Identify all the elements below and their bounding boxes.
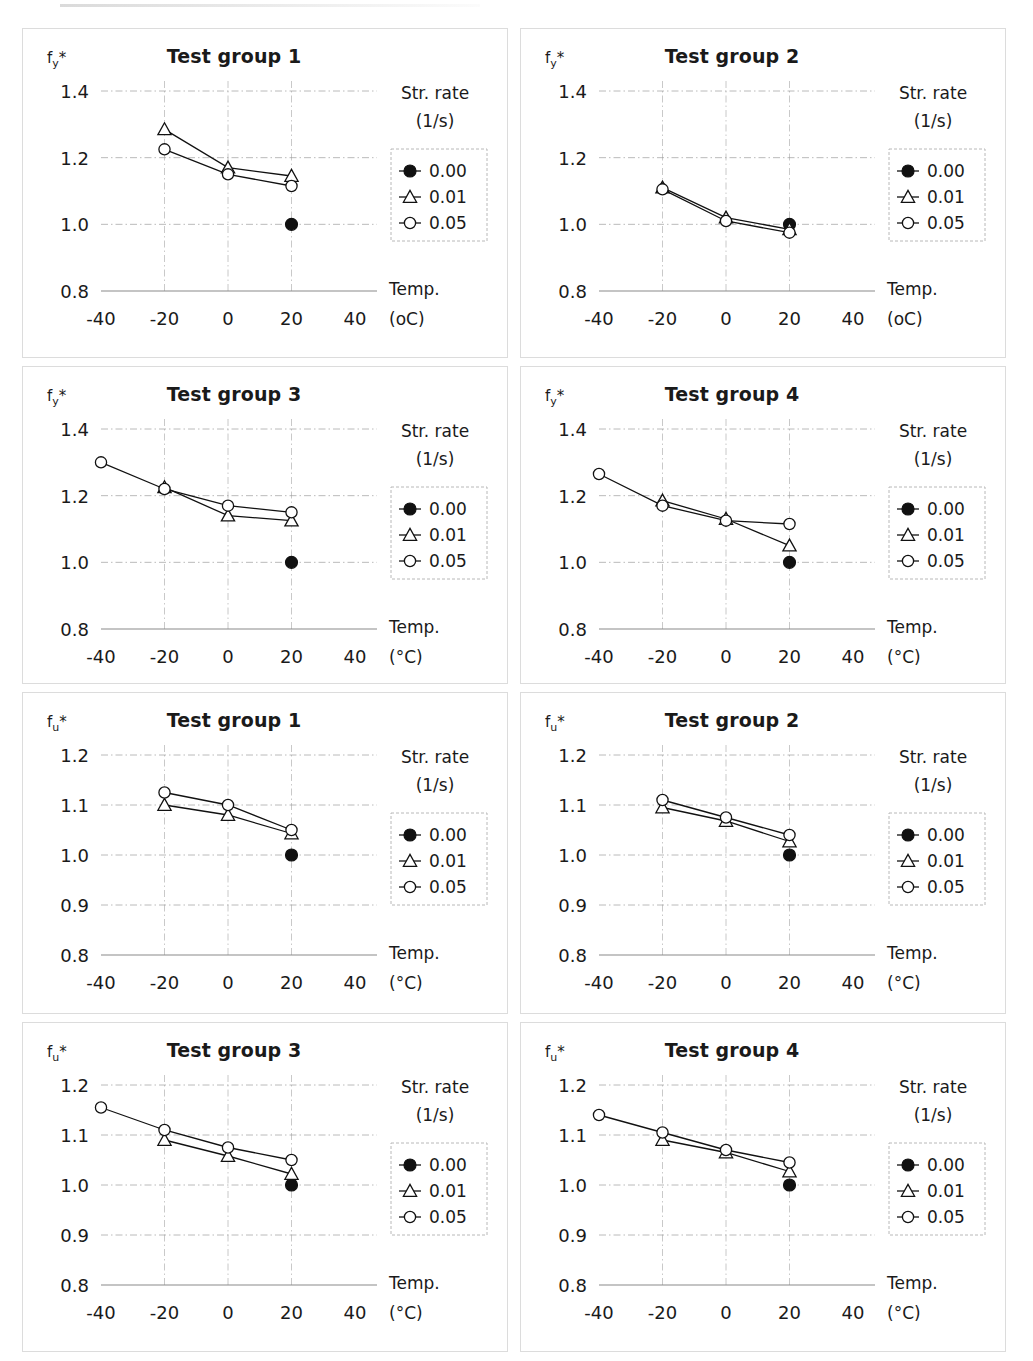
legend-marker-open-circle: [902, 555, 913, 566]
data-point-open-circle: [657, 500, 668, 511]
data-point-open-circle: [222, 1142, 233, 1153]
chart-svg: Test group 3fu*0.80.91.01.11.2-40-200204…: [23, 1023, 507, 1339]
x-tick-label: -20: [150, 308, 179, 329]
data-point-open-circle: [657, 184, 668, 195]
data-point-open-circle: [222, 500, 233, 511]
x-tick-label: -20: [150, 972, 179, 993]
data-point-open-circle: [222, 799, 233, 810]
legend-marker-filled-circle: [902, 829, 914, 841]
legend-label: 0.00: [429, 1155, 467, 1175]
data-point-open-circle: [159, 1124, 170, 1135]
data-point-open-circle: [95, 457, 106, 468]
chart-title: Test group 2: [665, 709, 800, 731]
legend-header-line1: Str. rate: [401, 83, 469, 103]
data-point-open-circle: [222, 169, 233, 180]
y-axis-label: fu*: [47, 713, 67, 734]
legend-header-line2: (1/s): [416, 111, 455, 131]
data-point-open-circle: [784, 518, 795, 529]
data-point-open-circle: [720, 215, 731, 226]
x-axis-title: Temp.: [886, 279, 938, 299]
chart-panel: Test group 3fu*0.80.91.01.11.2-40-200204…: [22, 1022, 508, 1352]
data-point-open-circle: [720, 812, 731, 823]
legend-label: 0.05: [927, 1207, 965, 1227]
chart-title: Test group 1: [167, 709, 302, 731]
x-tick-label: -40: [86, 308, 115, 329]
legend-marker-filled-circle: [902, 165, 914, 177]
data-point-open-circle: [286, 507, 297, 518]
chart-title: Test group 3: [167, 383, 302, 405]
x-axis-unit: (oC): [887, 309, 923, 329]
legend-label: 0.00: [927, 161, 965, 181]
data-point-open-circle: [784, 227, 795, 238]
series-line-0.05: [599, 1115, 790, 1163]
legend-marker-filled-circle: [404, 829, 416, 841]
chart-svg: Test group 1fy*0.81.01.21.4-40-2002040Te…: [23, 29, 507, 345]
x-tick-label: 20: [280, 972, 303, 993]
x-tick-label: 0: [720, 1302, 731, 1323]
y-tick-label: 1.2: [558, 486, 587, 507]
x-tick-label: 0: [222, 972, 233, 993]
legend-label: 0.05: [429, 551, 467, 571]
y-tick-label: 1.1: [558, 1125, 587, 1146]
legend-label: 0.05: [927, 213, 965, 233]
data-point-open-circle: [784, 829, 795, 840]
x-tick-label: -40: [584, 1302, 613, 1323]
x-axis-title: Temp.: [886, 617, 938, 637]
data-point-filled-circle: [286, 218, 298, 230]
x-tick-label: 20: [778, 972, 801, 993]
x-tick-label: 40: [344, 972, 367, 993]
x-tick-label: -40: [584, 308, 613, 329]
x-tick-label: -20: [150, 1302, 179, 1323]
chart-title: Test group 3: [167, 1039, 302, 1061]
chart-panel: Test group 2fu*0.80.91.01.11.2-40-200204…: [520, 692, 1006, 1014]
data-point-filled-circle: [784, 1179, 796, 1191]
chart-svg: Test group 2fy*0.81.01.21.4-40-2002040Te…: [521, 29, 1005, 345]
x-tick-label: -20: [648, 972, 677, 993]
legend-marker-filled-circle: [902, 503, 914, 515]
y-tick-label: 1.2: [558, 1075, 587, 1096]
data-point-open-circle: [593, 1109, 604, 1120]
x-axis-unit: (°C): [887, 1303, 921, 1323]
data-point-filled-circle: [286, 1179, 298, 1191]
legend-label: 0.05: [927, 877, 965, 897]
chart-panel: Test group 2fy*0.81.01.21.4-40-2002040Te…: [520, 28, 1006, 358]
data-point-filled-circle: [784, 849, 796, 861]
y-tick-label: 0.9: [60, 1225, 89, 1246]
legend-header-line1: Str. rate: [401, 747, 469, 767]
legend-header-line1: Str. rate: [401, 421, 469, 441]
legend-header-line2: (1/s): [416, 449, 455, 469]
legend-header-line1: Str. rate: [899, 747, 967, 767]
y-tick-label: 0.8: [558, 619, 587, 640]
x-tick-label: 40: [842, 972, 865, 993]
legend-marker-open-circle: [404, 881, 415, 892]
x-axis-unit: (°C): [389, 973, 423, 993]
x-tick-label: -40: [584, 972, 613, 993]
chart-svg: Test group 4fy*0.81.01.21.4-40-2002040Te…: [521, 367, 1005, 683]
legend-label: 0.05: [429, 1207, 467, 1227]
x-tick-label: 20: [778, 1302, 801, 1323]
y-tick-label: 1.4: [60, 81, 89, 102]
series-line-0.05: [599, 474, 790, 524]
y-axis-label: fy*: [47, 387, 67, 408]
x-tick-label: -20: [648, 646, 677, 667]
x-axis-title: Temp.: [388, 617, 440, 637]
legend-marker-open-circle: [404, 1211, 415, 1222]
y-tick-label: 1.1: [558, 795, 587, 816]
y-tick-label: 0.9: [60, 895, 89, 916]
x-tick-label: 0: [720, 972, 731, 993]
y-tick-label: 1.2: [60, 745, 89, 766]
chart-svg: Test group 4fu*0.80.91.01.11.2-40-200204…: [521, 1023, 1005, 1339]
x-tick-label: 40: [842, 646, 865, 667]
legend-label: 0.01: [429, 187, 467, 207]
legend-label: 0.01: [927, 851, 965, 871]
data-point-open-circle: [657, 794, 668, 805]
y-tick-label: 0.8: [60, 281, 89, 302]
y-tick-label: 0.9: [558, 1225, 587, 1246]
y-tick-label: 1.2: [60, 486, 89, 507]
data-point-open-circle: [159, 483, 170, 494]
y-tick-label: 1.2: [558, 148, 587, 169]
chart-panel: Test group 4fy*0.81.01.21.4-40-2002040Te…: [520, 366, 1006, 684]
x-tick-label: 40: [842, 308, 865, 329]
x-axis-unit: (°C): [389, 1303, 423, 1323]
data-point-open-circle: [286, 1154, 297, 1165]
